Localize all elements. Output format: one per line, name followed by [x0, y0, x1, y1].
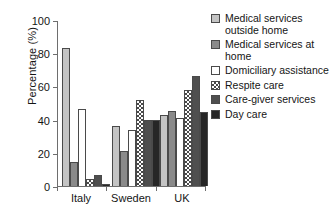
legend-label: Respite care	[225, 80, 284, 92]
bar-uk-series-3	[184, 90, 192, 186]
legend-label: Medical services at home	[225, 39, 333, 62]
chart-legend: Medical services outside homeMedical ser…	[211, 13, 333, 123]
x-tick-mark	[156, 187, 157, 191]
legend-item-3[interactable]: Respite care	[211, 80, 333, 92]
bar-sweden-series-2	[128, 130, 136, 186]
bar-uk-series-2	[176, 118, 184, 186]
bar-sweden-series-1	[120, 151, 128, 186]
y-tick-mark	[53, 87, 57, 88]
legend-label: Care-giver services	[225, 94, 315, 106]
y-tick-mark	[53, 154, 57, 155]
y-tick-label: 60	[38, 82, 50, 93]
legend-swatch-domiciliary	[211, 66, 220, 75]
x-tick-mark	[205, 187, 206, 191]
legend-label: Day care	[225, 109, 267, 121]
bar-group-uk	[160, 20, 208, 186]
legend-label: Domiciliary assistance	[225, 65, 329, 77]
bar-group-sweden	[112, 20, 160, 186]
bar-sweden-series-0	[112, 126, 120, 186]
bar-sweden-series-3	[136, 100, 144, 186]
y-tick-mark	[53, 54, 57, 55]
x-axis-line	[57, 186, 206, 187]
bar-italy-series-1	[70, 162, 78, 186]
y-tick-label: 20	[38, 148, 50, 159]
y-tick-mark	[53, 121, 57, 122]
bar-italy-series-2	[78, 109, 86, 186]
bar-italy-series-4	[94, 175, 102, 186]
legend-swatch-medical-outside	[211, 14, 220, 23]
y-tick-mark	[53, 21, 57, 22]
y-tick-label: 80	[38, 49, 50, 60]
bar-sweden-series-5	[152, 120, 160, 186]
bar-italy-series-0	[62, 48, 70, 186]
y-tick-label: 40	[38, 115, 50, 126]
bar-italy-series-3	[86, 179, 94, 186]
legend-label: Medical services outside home	[225, 13, 333, 36]
bar-uk-series-0	[160, 115, 168, 186]
legend-swatch-caregiver	[211, 95, 220, 104]
x-tick-label-uk: UK	[152, 192, 212, 204]
bar-sweden-series-4	[144, 120, 152, 186]
legend-swatch-respite	[211, 81, 220, 90]
legend-item-2[interactable]: Domiciliary assistance	[211, 65, 333, 77]
x-tick-mark	[57, 187, 58, 191]
y-axis-line	[57, 21, 58, 188]
y-tick-label: 0	[44, 182, 50, 193]
legend-item-5[interactable]: Day care	[211, 109, 333, 121]
bar-italy-series-5	[102, 184, 110, 186]
bar-group-italy	[62, 20, 110, 186]
y-tick-label: 100	[32, 16, 50, 27]
plot-area: 020406080100	[57, 21, 205, 187]
legend-item-0[interactable]: Medical services outside home	[211, 13, 333, 36]
legend-swatch-medical-at-home	[211, 40, 220, 49]
legend-swatch-day-care	[211, 110, 220, 119]
bar-uk-series-1	[168, 111, 176, 186]
bar-uk-series-4	[192, 76, 200, 186]
bar-chart-figure: Percentage (%) 020406080100 ItalySwedenU…	[0, 0, 334, 220]
bar-uk-series-5	[200, 112, 208, 186]
legend-item-4[interactable]: Care-giver services	[211, 94, 333, 106]
legend-item-1[interactable]: Medical services at home	[211, 39, 333, 62]
x-tick-mark	[106, 187, 107, 191]
